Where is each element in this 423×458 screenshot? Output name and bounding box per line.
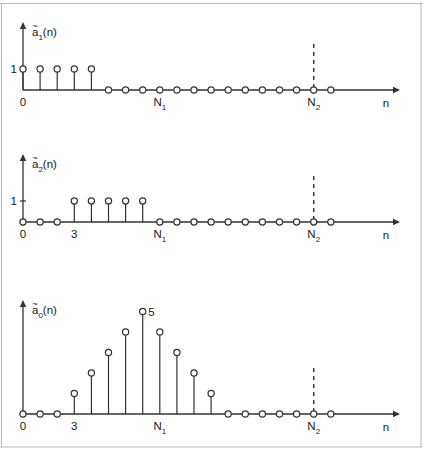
stem-marker	[225, 411, 231, 417]
stem-marker	[174, 87, 180, 93]
x-tick-label-subscript: 1	[162, 235, 167, 244]
y-axis-arrowhead	[20, 300, 26, 307]
stem-marker	[105, 87, 111, 93]
stem-marker	[259, 219, 265, 225]
stem-marker	[311, 219, 317, 225]
x-tick-label-subscript: 1	[162, 427, 167, 436]
stem-marker	[71, 390, 77, 396]
stem-marker	[20, 411, 26, 417]
stem-marker	[208, 390, 214, 396]
plot-title-tilde-icon: ~	[32, 299, 37, 309]
stem-marker	[174, 349, 180, 355]
stem-marker	[311, 411, 317, 417]
x-axis-name: n	[383, 97, 389, 109]
stem-marker	[54, 411, 60, 417]
stem-marker	[123, 198, 129, 204]
stem-marker	[208, 219, 214, 225]
x-tick-label-base: N	[307, 228, 315, 240]
stem-marker	[225, 219, 231, 225]
x-tick-label-n2: N2	[307, 228, 320, 244]
x-tick-label-n2: N2	[307, 96, 320, 112]
x-tick-label-0: 0	[20, 420, 26, 432]
x-axis-name: n	[383, 421, 389, 433]
stem-marker	[276, 87, 282, 93]
stem-marker	[311, 87, 317, 93]
x-tick-label-n1: N1	[153, 228, 166, 244]
stem-marker	[88, 198, 94, 204]
x-tick-label-n2: N2	[307, 420, 320, 436]
stem-marker	[191, 219, 197, 225]
stem-marker	[88, 66, 94, 72]
panel-plot-a2: a2(n)~103N1N2n	[11, 153, 400, 244]
stem-marker	[123, 87, 129, 93]
x-axis-arrowhead	[393, 87, 400, 93]
stem-marker	[328, 87, 334, 93]
stem-marker	[20, 219, 26, 225]
stem-marker	[140, 198, 146, 204]
x-tick-label-3: 3	[71, 420, 77, 432]
stem-marker	[71, 66, 77, 72]
stem-marker	[328, 219, 334, 225]
stem-marker	[54, 66, 60, 72]
stem-marker	[191, 87, 197, 93]
stem-marker	[123, 329, 129, 335]
stem-marker	[157, 329, 163, 335]
stem-marker	[259, 87, 265, 93]
stem-marker	[37, 411, 43, 417]
x-tick-label-base: N	[153, 420, 161, 432]
x-axis-name: n	[383, 229, 389, 241]
figure-canvas: a1(n)~10N1N2na2(n)~103N1N2na0(n)~03N1N2n…	[0, 0, 423, 458]
stem-marker	[276, 411, 282, 417]
stem-marker	[242, 411, 248, 417]
stem-marker	[294, 87, 300, 93]
x-tick-label-n1: N1	[153, 420, 166, 436]
stem-marker	[225, 87, 231, 93]
stem-marker	[37, 66, 43, 72]
y-axis-arrowhead	[20, 22, 26, 29]
plot-title-tilde-icon: ~	[32, 153, 37, 163]
stem-marker	[328, 411, 334, 417]
plot-title-argument: (n)	[43, 304, 57, 316]
stem-marker	[242, 87, 248, 93]
x-tick-label-0: 0	[20, 96, 26, 108]
stem-marker	[259, 411, 265, 417]
stem-marker	[105, 198, 111, 204]
x-tick-label-base: N	[153, 96, 161, 108]
plot-title-tilde-icon: ~	[32, 21, 37, 31]
stem-marker	[37, 219, 43, 225]
y-tick-label: 1	[11, 195, 17, 207]
x-tick-label-subscript: 1	[162, 103, 167, 112]
x-tick-label-base: N	[307, 96, 315, 108]
x-axis-arrowhead	[393, 219, 400, 225]
stem-plot-figure: a1(n)~10N1N2na2(n)~103N1N2na0(n)~03N1N2n…	[0, 0, 423, 458]
stem-marker	[157, 219, 163, 225]
stem-marker	[88, 370, 94, 376]
plots-group: a1(n)~10N1N2na2(n)~103N1N2na0(n)~03N1N2n…	[0, 4, 423, 448]
panel-plot-a1: a1(n)~10N1N2n	[11, 21, 400, 112]
x-tick-label-subscript: 2	[316, 235, 321, 244]
stem-marker	[140, 308, 146, 314]
stem-marker	[105, 349, 111, 355]
stem-marker	[174, 219, 180, 225]
stem-marker	[71, 198, 77, 204]
stem-marker	[294, 411, 300, 417]
stem-marker	[242, 219, 248, 225]
stem-marker	[191, 370, 197, 376]
stem-marker	[54, 219, 60, 225]
peak-value-annotation: 5	[148, 306, 154, 318]
plot-title-argument: (n)	[43, 158, 57, 170]
x-tick-label-base: N	[153, 228, 161, 240]
x-tick-label-base: N	[307, 420, 315, 432]
x-tick-label-0: 0	[20, 228, 26, 240]
panel-plot-a0: a0(n)~03N1N2n5	[20, 299, 400, 436]
x-axis-arrowhead	[393, 411, 400, 417]
x-tick-label-subscript: 2	[316, 103, 321, 112]
stem-marker	[140, 87, 146, 93]
y-axis-arrowhead	[20, 154, 26, 161]
x-tick-label-3: 3	[71, 228, 77, 240]
x-tick-label-n1: N1	[153, 96, 166, 112]
stem-marker	[294, 219, 300, 225]
x-tick-label-subscript: 2	[316, 427, 321, 436]
stem-marker	[276, 219, 282, 225]
stem-marker	[157, 87, 163, 93]
